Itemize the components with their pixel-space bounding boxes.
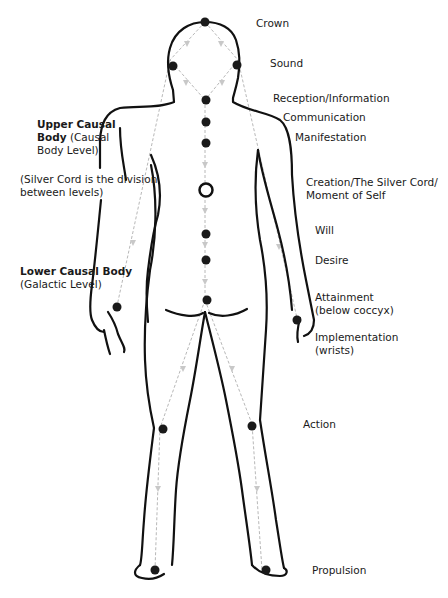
point-will <box>202 230 211 239</box>
label-attainment-line2: (below coccyx) <box>315 304 394 317</box>
point-propulsion-right <box>262 566 271 575</box>
label-implementation-line1: Implementation <box>315 331 398 344</box>
point-attainment <box>203 296 212 305</box>
label-action: Action <box>303 418 336 431</box>
upper-causal-subtitle: (Causal <box>67 131 110 143</box>
upper-causal-level: Body Level) <box>37 144 116 157</box>
label-reception: Reception/Information <box>273 92 390 105</box>
label-upper-causal-body: Upper Causal Body (Causal Body Level) <box>37 118 116 157</box>
label-communication: Communication <box>283 111 366 124</box>
label-propulsion: Propulsion <box>312 564 366 577</box>
label-lower-causal-body: Lower Causal Body (Galactic Level) <box>20 265 132 291</box>
label-implementation: Implementation (wrists) <box>315 331 398 357</box>
point-manifestation <box>202 139 211 148</box>
point-implementation-right <box>293 316 302 325</box>
point-reception <box>202 96 211 105</box>
upper-causal-title: Upper Causal <box>37 118 116 130</box>
point-sound-left <box>169 62 178 71</box>
point-implementation-left <box>113 303 122 312</box>
label-desire: Desire <box>315 254 348 267</box>
lower-causal-level: (Galactic Level) <box>20 278 132 291</box>
point-crown <box>201 18 210 27</box>
point-sound-right <box>233 61 242 70</box>
point-creation <box>200 184 213 197</box>
point-action-left <box>159 425 168 434</box>
label-will: Will <box>315 224 334 237</box>
point-action-right <box>248 422 257 431</box>
label-crown: Crown <box>256 17 289 30</box>
label-manifestation: Manifestation <box>295 131 366 144</box>
point-propulsion-left <box>151 566 160 575</box>
label-division-note: (Silver Cord is the division between lev… <box>20 173 157 199</box>
label-creation-line2: Moment of Self <box>306 189 438 202</box>
label-creation: Creation/The Silver Cord/ Moment of Self <box>306 176 438 202</box>
label-creation-line1: Creation/The Silver Cord/ <box>306 176 438 189</box>
division-note-line1: (Silver Cord is the division <box>20 173 157 186</box>
label-attainment: Attainment (below coccyx) <box>315 291 394 317</box>
upper-causal-body-word: Body <box>37 131 67 143</box>
label-implementation-line2: (wrists) <box>315 344 398 357</box>
point-desire <box>202 256 211 265</box>
point-communication <box>202 118 211 127</box>
division-note-line2: between levels) <box>20 186 157 199</box>
label-attainment-line1: Attainment <box>315 291 394 304</box>
lower-causal-title: Lower Causal Body <box>20 265 132 277</box>
label-sound: Sound <box>270 57 303 70</box>
body-outline <box>90 22 314 579</box>
